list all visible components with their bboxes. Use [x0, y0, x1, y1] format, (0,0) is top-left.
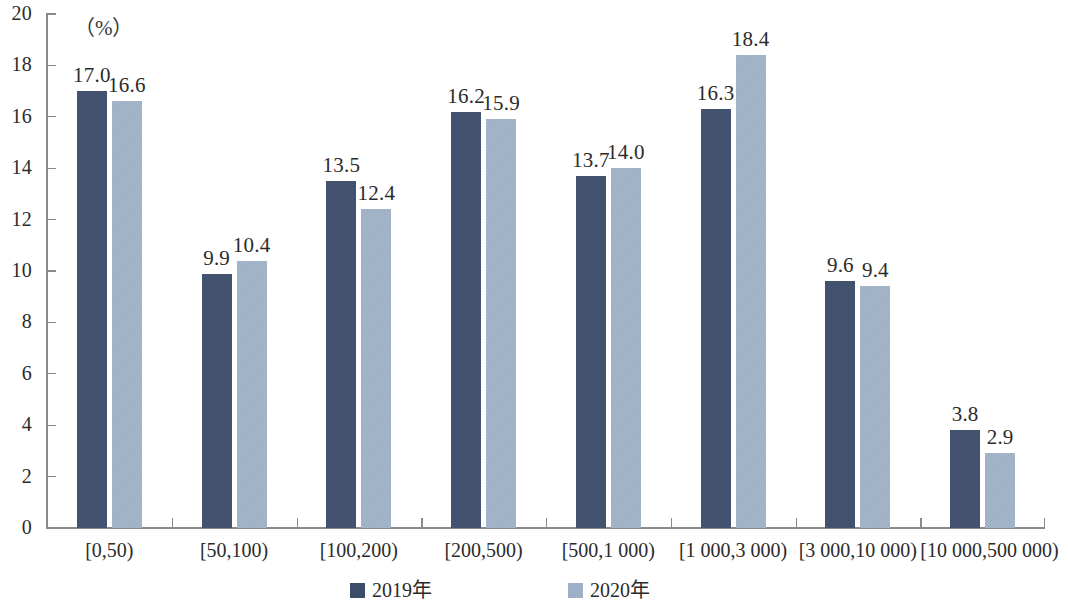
- x-axis-category-label: [50,100): [172, 538, 297, 562]
- bar-2019: [326, 181, 356, 528]
- bar-2020: [985, 453, 1015, 528]
- y-axis-tick-label: 10: [0, 260, 32, 280]
- x-axis-category-label: [3 000,10 000): [796, 538, 921, 562]
- bar-2019: [825, 281, 855, 528]
- bar-value-label: 16.6: [101, 75, 153, 96]
- bar-2019: [701, 109, 731, 528]
- legend-item-2019年[interactable]: 2019年: [350, 580, 432, 600]
- bar-value-label: 16.3: [690, 83, 742, 104]
- chart-legend: 2019年2020年: [0, 578, 1068, 606]
- y-axis-tick-label: 0: [0, 517, 32, 537]
- bar-value-label: 18.4: [725, 29, 777, 50]
- bar-2020: [736, 55, 766, 528]
- y-axis-tick-label: 12: [0, 209, 32, 229]
- bar-value-label: 10.4: [226, 235, 278, 256]
- x-axis-category-label: [500,1 000): [546, 538, 671, 562]
- bar-2019: [77, 91, 107, 528]
- legend-item-2020年[interactable]: 2020年: [568, 580, 650, 600]
- bar-value-label: 9.4: [849, 260, 901, 281]
- y-axis-tick-label: 16: [0, 106, 32, 126]
- bar-value-label: 12.4: [350, 183, 402, 204]
- bar-2019: [576, 176, 606, 528]
- bar-2020: [112, 101, 142, 528]
- y-axis-tick-label: 20: [0, 3, 32, 23]
- y-axis-tick-label: 8: [0, 311, 32, 331]
- y-axis-tick-label: 2: [0, 466, 32, 486]
- x-axis-category-label: [10 000,500 000): [920, 538, 1045, 562]
- bar-2019: [202, 274, 232, 528]
- bar-value-label: 13.5: [315, 155, 367, 176]
- y-axis-tick-label: 4: [0, 414, 32, 434]
- bar-2019: [451, 112, 481, 528]
- legend-swatch-icon: [568, 583, 583, 598]
- x-axis-category-label: [100,200): [297, 538, 422, 562]
- bar-value-label: 14.0: [600, 142, 652, 163]
- y-axis-tick-label: 14: [0, 157, 32, 177]
- legend-label: 2020年: [590, 580, 650, 600]
- plot-area: 17.016.69.910.413.512.416.215.913.714.01…: [47, 14, 1045, 528]
- bar-2020: [486, 119, 516, 528]
- bar-2020: [611, 168, 641, 528]
- legend-label: 2019年: [372, 580, 432, 600]
- bar-2020: [361, 209, 391, 528]
- x-axis-category-label: [0,50): [47, 538, 172, 562]
- bar-chart: （%） 20181614121086420 17.016.69.910.413.…: [0, 0, 1068, 606]
- bar-2020: [860, 286, 890, 528]
- y-axis-tick-label: 18: [0, 54, 32, 74]
- bar-value-label: 15.9: [475, 93, 527, 114]
- legend-swatch-icon: [350, 583, 365, 598]
- bar-2020: [237, 261, 267, 528]
- x-axis-category-label: [200,500): [421, 538, 546, 562]
- x-axis-category-label: [1 000,3 000): [671, 538, 796, 562]
- y-axis-tick-label: 6: [0, 363, 32, 383]
- bar-value-label: 2.9: [974, 427, 1026, 448]
- bar-value-label: 3.8: [939, 404, 991, 425]
